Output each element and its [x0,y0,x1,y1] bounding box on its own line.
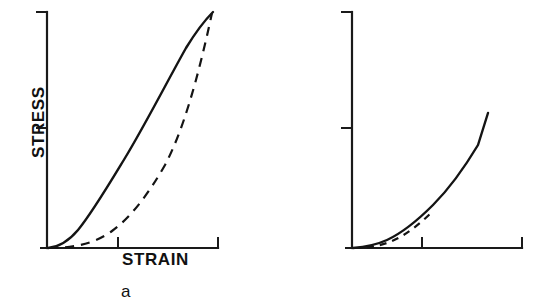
panel-a: STRESS STRAIN a [0,0,269,308]
panel-b-plot [270,0,539,308]
y-axis-label-a: STRESS [30,86,47,158]
panel-caption-a: a [121,283,130,300]
curve-dashed-a [49,13,212,248]
x-axis-label-a: STRAIN [122,251,189,268]
figure-root: STRESS STRAIN a STRESS STRAIN b [0,0,539,308]
curve-solid-b [353,113,488,248]
curve-solid-a [48,12,213,248]
panel-b: STRESS STRAIN b [270,0,539,308]
